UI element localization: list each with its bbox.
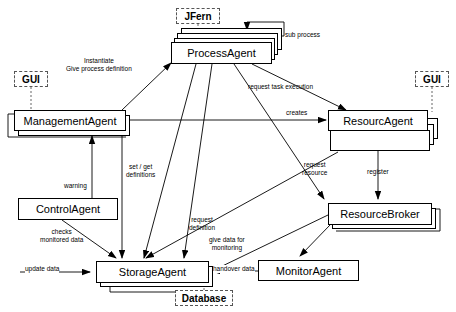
- edge-broker-to-monitor: [300, 225, 330, 256]
- node-storage-agent-label: StorageAgent: [119, 266, 186, 278]
- node-process-agent-label: ProcessAgent: [187, 47, 255, 59]
- node-storage-agent[interactable]: StorageAgent: [96, 261, 209, 283]
- tag-gui-management: GUI: [14, 71, 48, 87]
- edge-label-update-data: update data: [25, 265, 59, 273]
- node-monitor-agent-label: MonitorAgent: [276, 265, 341, 277]
- node-management-agent-label: ManagementAgent: [24, 115, 117, 127]
- edge-label-sub-process: sub process: [285, 31, 320, 39]
- edge-label-request-definition: request definition: [189, 216, 215, 232]
- tag-gui-management-label: GUI: [22, 74, 40, 85]
- node-resourc-agent-label: ResourcAgent: [343, 115, 413, 127]
- architecture-diagram: ProcessAgent ManagementAgent ResourcAgen…: [0, 0, 456, 312]
- node-monitor-agent[interactable]: MonitorAgent: [258, 260, 359, 281]
- edge-label-creates: creates: [286, 109, 307, 117]
- edge-label-give-data-for-monitoring: give data for monitoring: [209, 236, 245, 252]
- node-process-agent[interactable]: ProcessAgent: [171, 42, 272, 64]
- node-management-agent[interactable]: ManagementAgent: [14, 110, 126, 131]
- tag-jfern: JFern: [176, 8, 220, 24]
- edge-label-request-task-execution: request task execution: [248, 83, 313, 91]
- node-control-agent[interactable]: ControlAgent: [18, 198, 118, 220]
- tag-database: Database: [175, 290, 233, 306]
- tag-gui-resourcagent: GUI: [415, 71, 449, 87]
- edge-label-request-resource: request resource: [302, 161, 327, 177]
- edge-label-register: register: [367, 168, 389, 176]
- node-control-agent-label: ControlAgent: [36, 203, 100, 215]
- node-resource-broker[interactable]: ResourceBroker: [328, 203, 432, 225]
- tag-database-label: Database: [182, 293, 226, 304]
- resourc-agent-stack-copy-3: [330, 130, 430, 151]
- tag-gui-resourcagent-label: GUI: [423, 74, 441, 85]
- edge-label-instantiate: Instantiate Give process definition: [66, 57, 132, 73]
- edge-label-set-get-definitions: set / get definitions: [126, 163, 155, 179]
- edge-label-handover-data: handover data: [213, 265, 255, 273]
- edge-label-checks-monitored-data: checks monitored data: [40, 228, 83, 244]
- edge-label-warning: warning: [64, 182, 87, 190]
- node-resource-broker-label: ResourceBroker: [340, 208, 419, 220]
- node-resourc-agent[interactable]: ResourcAgent: [328, 110, 428, 131]
- tag-jfern-label: JFern: [184, 11, 211, 22]
